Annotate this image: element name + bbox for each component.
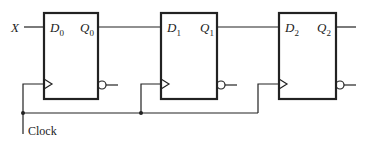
clock-triangle-1 xyxy=(161,79,169,89)
qbar-bubble-2 xyxy=(336,81,344,89)
d2-label: D2 xyxy=(285,21,299,38)
clock-wire-2 xyxy=(258,84,279,113)
d1-label: D1 xyxy=(167,21,181,38)
qbar-bubble-1 xyxy=(217,81,225,89)
d0-label: D0 xyxy=(50,21,64,38)
q0-label: Q0 xyxy=(80,21,94,38)
q1-label: Q1 xyxy=(200,21,214,38)
junction-dot-1 xyxy=(139,111,143,115)
q2-label: Q2 xyxy=(317,21,331,38)
qbar-bubble-0 xyxy=(98,81,106,89)
clock-triangle-0 xyxy=(44,79,52,89)
shift-register-diagram: X D0 Q0 D1 Q1 D2 Q2 Clock xyxy=(0,0,371,149)
junction-dot-0 xyxy=(21,111,25,115)
clock-triangle-2 xyxy=(279,79,287,89)
clock-label: Clock xyxy=(28,125,57,137)
clock-wire-1 xyxy=(141,84,161,113)
input-x-label: X xyxy=(11,21,19,34)
